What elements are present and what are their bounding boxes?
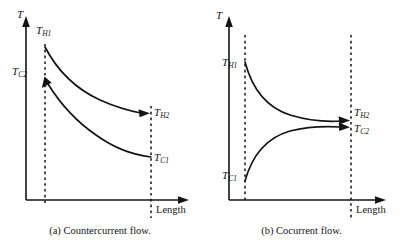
label-T-H2: TH2 xyxy=(154,107,169,118)
x-axis xyxy=(26,196,189,204)
label-T-C1: TC1 xyxy=(222,170,237,181)
label-T-H1: TH1 xyxy=(36,25,51,36)
y-axis xyxy=(22,16,30,200)
label-T-H2: TH2 xyxy=(354,107,369,118)
x-axis-title: Length xyxy=(156,205,186,216)
label-T-C2: TC2 xyxy=(12,66,27,77)
panel-b-caption: (b) Cocurrent flow. xyxy=(200,226,403,237)
heat-exchanger-temperature-profile-figure: T Length TH1 TC2 TH2 TC1 (a) Countercurr… xyxy=(0,0,403,245)
panel-cocurrent-flow: T Length TH1 TC1 TH2 TC2 (b) Cocurrent f… xyxy=(200,0,403,245)
label-T-C1: TC1 xyxy=(154,152,169,163)
label-T-H1: TH1 xyxy=(222,57,237,68)
x-axis-title: Length xyxy=(356,205,386,216)
y-axis-title: T xyxy=(17,9,23,20)
hot-stream-curve xyxy=(45,47,150,117)
hot-stream-curve xyxy=(245,62,350,124)
panel-a-caption: (a) Countercurrent flow. xyxy=(0,226,200,237)
x-axis xyxy=(229,196,386,204)
cold-stream-curve xyxy=(42,77,151,158)
label-T-C2: TC2 xyxy=(354,123,369,134)
cold-stream-curve xyxy=(245,123,350,181)
y-axis-title: T xyxy=(216,10,222,21)
panel-countercurrent-flow: T Length TH1 TC2 TH2 TC1 (a) Countercurr… xyxy=(0,0,200,245)
